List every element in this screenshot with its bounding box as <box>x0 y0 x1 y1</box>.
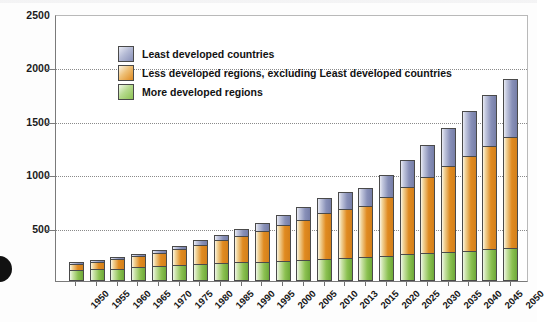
x-axis-tick <box>303 282 304 286</box>
x-axis-label-2040: 2040 <box>481 288 504 311</box>
bar-segment-least-2025 <box>400 160 415 186</box>
bar-segment-more-2013 <box>338 258 353 281</box>
bar-2000[interactable] <box>276 215 291 281</box>
bar-1985[interactable] <box>214 235 229 281</box>
x-axis-tick <box>137 282 138 286</box>
x-axis-label-2013: 2013 <box>357 288 380 311</box>
plot-area: Least developed countries Less developed… <box>55 15 528 282</box>
bar-1950[interactable] <box>69 262 84 281</box>
x-axis-label-1975: 1975 <box>192 288 215 311</box>
bar-2035[interactable] <box>441 128 456 281</box>
bar-2050[interactable] <box>503 79 518 281</box>
bar-segment-less-1955 <box>90 262 105 270</box>
bar-1970[interactable] <box>152 250 167 281</box>
bar-segment-less-1970 <box>152 253 167 266</box>
bar-segment-least-2035 <box>441 128 456 166</box>
bar-1955[interactable] <box>90 260 105 281</box>
bar-2005[interactable] <box>296 207 311 281</box>
bar-2010[interactable] <box>317 198 332 281</box>
y-axis-tick-label: 2500 <box>26 9 50 21</box>
x-axis-label-2030: 2030 <box>440 288 463 311</box>
bar-segment-less-2013 <box>338 209 353 258</box>
y-axis-tick-label: 1500 <box>26 116 50 128</box>
x-axis-label-1960: 1960 <box>130 288 153 311</box>
bar-segment-less-2030 <box>420 177 435 253</box>
legend-label-more: More developed regions <box>142 86 263 98</box>
legend-item-least: Least developed countries <box>118 46 452 62</box>
x-axis-label-1955: 1955 <box>109 288 132 311</box>
bar-2045[interactable] <box>482 95 497 281</box>
x-axis-label-1965: 1965 <box>151 288 174 311</box>
x-axis-label-1995: 1995 <box>275 288 298 311</box>
x-axis-tick <box>489 282 490 286</box>
bar-segment-least-2010 <box>317 198 332 213</box>
x-axis-label-2045: 2045 <box>502 288 525 311</box>
x-axis-label-1950: 1950 <box>89 288 112 311</box>
x-axis-tick <box>427 282 428 286</box>
bar-2025[interactable] <box>400 160 415 281</box>
x-axis-label-2010: 2010 <box>337 288 360 311</box>
bar-segment-more-1970 <box>152 266 167 281</box>
bar-2013[interactable] <box>338 192 353 281</box>
x-axis-tick <box>117 282 118 286</box>
bar-1960[interactable] <box>110 257 125 281</box>
bar-segment-least-2000 <box>276 215 291 225</box>
x-axis-label-2025: 2025 <box>419 288 442 311</box>
bar-segment-more-2035 <box>441 252 456 281</box>
x-axis-tick <box>158 282 159 286</box>
bar-2030[interactable] <box>420 145 435 281</box>
bar-segment-more-2000 <box>276 261 291 281</box>
bar-segment-less-1960 <box>110 259 125 268</box>
bar-2040[interactable] <box>462 111 477 281</box>
bar-segment-more-2040 <box>462 251 477 281</box>
bar-2015[interactable] <box>358 188 373 281</box>
x-axis-tick <box>365 282 366 286</box>
bar-2020[interactable] <box>379 175 394 281</box>
bar-segment-least-2050 <box>503 79 518 138</box>
x-axis-tick <box>406 282 407 286</box>
x-axis-label-1990: 1990 <box>254 288 277 311</box>
bar-segment-less-2015 <box>358 206 373 258</box>
x-axis-tick <box>96 282 97 286</box>
bar-segment-more-1990 <box>234 262 249 281</box>
legend-swatch-more-developed-regions <box>118 84 134 100</box>
bar-1990[interactable] <box>234 229 249 281</box>
bar-segment-more-1965 <box>131 267 146 281</box>
bar-1980[interactable] <box>193 240 208 281</box>
bar-segment-less-2005 <box>296 220 311 260</box>
bar-1995[interactable] <box>255 223 270 281</box>
bar-segment-least-2005 <box>296 207 311 219</box>
bar-segment-less-2000 <box>276 225 291 260</box>
bar-segment-less-1990 <box>234 236 249 263</box>
bar-1975[interactable] <box>172 246 187 281</box>
bar-segment-least-2030 <box>420 145 435 177</box>
x-axis-tick <box>220 282 221 286</box>
bar-segment-less-1950 <box>69 264 84 271</box>
bar-segment-more-2045 <box>482 249 497 281</box>
bar-segment-less-2010 <box>317 213 332 259</box>
bar-segment-more-2020 <box>379 256 394 281</box>
bar-segment-less-2040 <box>462 156 477 250</box>
bar-segment-least-2045 <box>482 95 497 147</box>
bar-segment-more-1980 <box>193 264 208 281</box>
bar-segment-more-2025 <box>400 254 415 281</box>
x-axis-tick <box>179 282 180 286</box>
bar-segment-less-2025 <box>400 187 415 255</box>
bar-1965[interactable] <box>131 254 146 281</box>
x-axis-tick <box>282 282 283 286</box>
bar-segment-more-1975 <box>172 265 187 281</box>
bar-segment-more-1955 <box>90 269 105 281</box>
x-axis-tick <box>324 282 325 286</box>
y-axis-tick <box>46 69 56 70</box>
bar-segment-least-2020 <box>379 175 394 197</box>
x-axis-label-2015: 2015 <box>378 288 401 311</box>
x-axis-label-2035: 2035 <box>461 288 484 311</box>
x-axis-tick <box>261 282 262 286</box>
bar-segment-more-2010 <box>317 259 332 281</box>
x-axis-tick <box>386 282 387 286</box>
y-axis-tick <box>46 176 56 177</box>
y-axis-tick-label: 500 <box>32 223 50 235</box>
legend-label-less: Less developed regions, excluding Least … <box>142 67 452 79</box>
legend-item-less: Less developed regions, excluding Least … <box>118 65 452 81</box>
